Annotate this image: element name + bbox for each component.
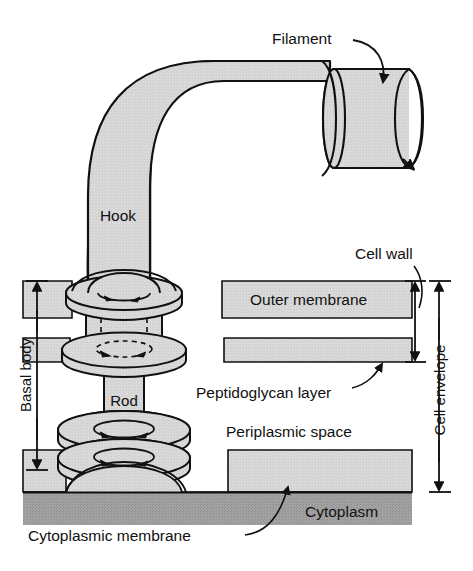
outer-membrane-label: Outer membrane <box>250 291 367 308</box>
filament-label: Filament <box>272 30 332 47</box>
rod-label: Rod <box>110 392 138 409</box>
diagram-canvas: Hook Rod <box>0 0 473 571</box>
flagellum-diagram: Hook Rod <box>0 0 473 571</box>
basal-body-label: Basal body <box>17 337 34 412</box>
ring-p <box>62 333 186 378</box>
cell-wall-label: Cell wall <box>355 245 413 262</box>
cell-envelope-label: Cell envelope <box>431 345 448 436</box>
peptidoglycan-label: Peptidoglycan layer <box>196 384 331 401</box>
hook-label: Hook <box>100 207 136 224</box>
cytoplasm-label: Cytoplasm <box>305 503 378 520</box>
filament-top <box>323 69 423 170</box>
periplasmic-space-label: Periplasmic space <box>226 423 352 440</box>
cytoplasmic-membrane-label: Cytoplasmic membrane <box>28 527 191 544</box>
